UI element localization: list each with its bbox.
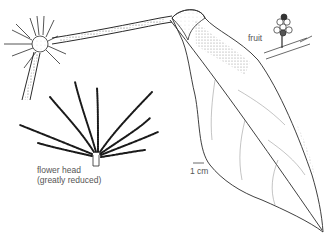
fruit-label: fruit — [248, 33, 262, 43]
leaf — [170, 10, 323, 232]
flower-head-stalk — [93, 155, 99, 166]
fruit-detail — [264, 14, 312, 59]
scale-label: 1 cm — [190, 166, 208, 176]
flower-head-detail — [20, 82, 158, 157]
flower-head-label: flower head — [37, 165, 81, 175]
botanical-illustration: fruit flower head (greatly reduced) 1 cm — [0, 0, 329, 235]
stem-node-detail — [4, 16, 172, 100]
illustration-drawing — [0, 0, 329, 235]
flower-head-note: (greatly reduced) — [37, 175, 101, 185]
